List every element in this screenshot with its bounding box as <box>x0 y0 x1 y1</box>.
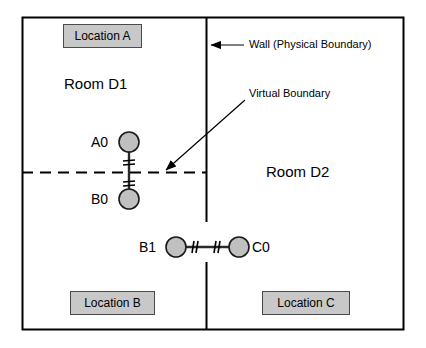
node-label-a0: A0 <box>91 135 108 149</box>
wall-annotation-label: Wall (Physical Boundary) <box>249 39 371 50</box>
location-box-c[interactable]: Location C <box>262 291 350 315</box>
node-label-b1: B1 <box>139 240 156 254</box>
node-a0[interactable] <box>119 132 139 152</box>
node-b1[interactable] <box>166 237 186 257</box>
virtual-boundary-annotation-label: Virtual Boundary <box>249 88 330 99</box>
node-label-b0: B0 <box>91 192 108 206</box>
room-label-d2: Room D2 <box>266 164 329 179</box>
node-b0[interactable] <box>119 189 139 209</box>
room-label-d1: Room D1 <box>64 76 127 91</box>
location-box-b[interactable]: Location B <box>70 291 155 315</box>
location-box-a[interactable]: Location A <box>63 24 142 48</box>
diagram-canvas: Room D1 Room D2 Location A Location B Lo… <box>0 0 426 348</box>
node-label-c0: C0 <box>252 240 270 254</box>
diagram-vector-layer <box>0 0 426 348</box>
node-c0[interactable] <box>229 237 249 257</box>
